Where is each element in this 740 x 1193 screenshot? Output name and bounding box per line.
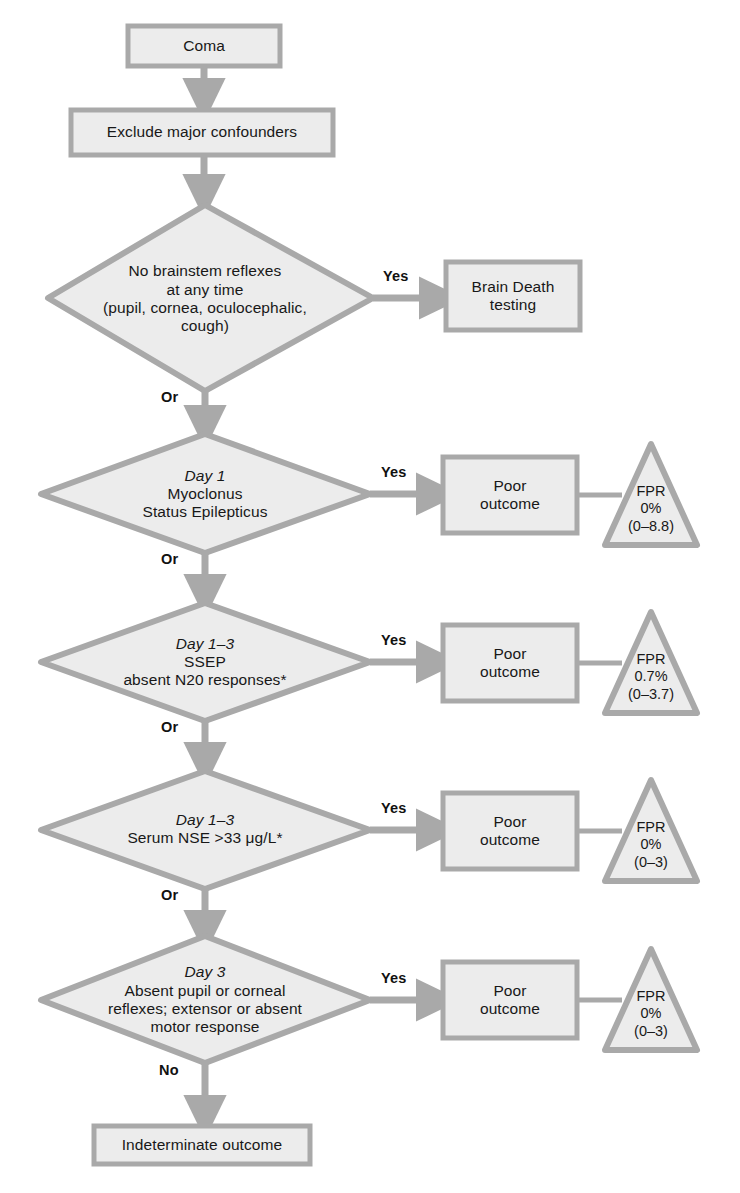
edge-label-yes-2: Yes <box>381 464 407 480</box>
node-decision-brainstem-reflexes-shape <box>48 205 373 391</box>
node-decision-day1-myoclonus-shape <box>41 434 370 553</box>
node-poor-outcome-4-shape <box>443 962 577 1038</box>
node-poor-outcome-1-shape <box>443 457 577 533</box>
node-fpr-triangle-4-label: FPR 0% (0–3) <box>608 983 694 1045</box>
node-decision-nse-shape <box>41 771 370 889</box>
node-fpr-triangle-3-label: FPR 0% (0–3) <box>608 814 694 876</box>
edge-label-yes-1: Yes <box>383 268 409 284</box>
edge-label-yes-4: Yes <box>381 800 407 816</box>
node-coma-shape <box>128 26 280 66</box>
flowchart: Coma Exclude major confounders No brains… <box>0 0 740 1193</box>
node-poor-outcome-3-shape <box>443 793 577 869</box>
node-fpr-triangle-1-label: FPR 0% (0–8.8) <box>608 478 694 540</box>
edge-label-or-3: Or <box>161 719 178 735</box>
edge-label-yes-3: Yes <box>381 632 407 648</box>
node-exclude-confounders-shape <box>71 110 333 155</box>
edge-label-or-4: Or <box>161 887 178 903</box>
node-decision-ssep-shape <box>41 603 370 721</box>
edge-label-or-2: Or <box>161 551 178 567</box>
node-fpr-triangle-2-label: FPR 0.7% (0–3.7) <box>608 646 694 708</box>
edge-label-or-1: Or <box>161 389 178 405</box>
edge-label-yes-5: Yes <box>381 970 407 986</box>
node-brain-death-testing-shape <box>446 262 580 330</box>
edge-label-no-5: No <box>159 1062 179 1078</box>
node-decision-day3-shape <box>41 936 370 1063</box>
node-poor-outcome-2-shape <box>443 625 577 701</box>
node-indeterminate-outcome-shape <box>94 1126 310 1164</box>
